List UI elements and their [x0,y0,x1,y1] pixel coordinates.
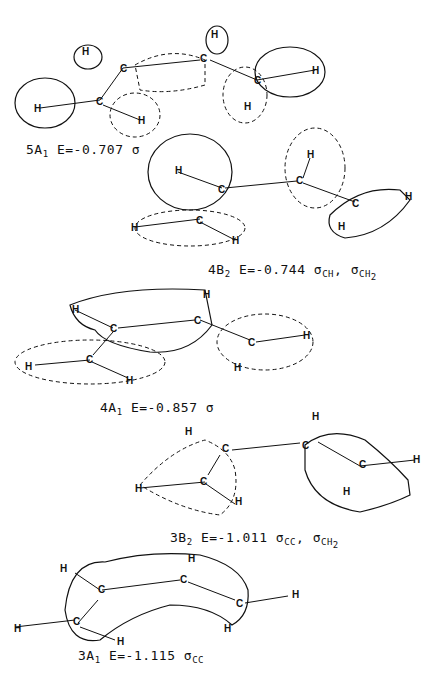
svg-text:H: H [224,623,231,634]
character-subscript: CH [322,269,334,279]
character-subscript: CC [192,655,204,665]
svg-text:H: H [82,46,89,57]
svg-text:H: H [292,589,299,600]
svg-text:C: C [86,354,93,365]
orbital-3b2: CC CC HH HH HH [135,411,420,515]
svg-text:C: C [254,75,261,86]
svg-text:H: H [131,222,138,233]
sub-sub-text: 2 [333,540,339,550]
svg-text:H: H [72,304,79,315]
sub-text: CH [359,269,371,279]
svg-text:C: C [218,184,225,195]
orbital-character-2: σ [313,530,321,545]
symmetry-label: 5A [26,142,43,157]
svg-text:H: H [413,454,420,465]
svg-text:H: H [232,235,239,246]
svg-text:C: C [200,53,207,64]
orbital-character: σ [184,648,192,663]
svg-text:C: C [98,584,105,595]
svg-text:C: C [96,96,103,107]
svg-text:C: C [110,323,117,334]
orbital-3a1: CC CC HH HH HH [14,553,299,647]
svg-text:C: C [194,315,201,326]
svg-text:H: H [126,375,133,386]
energy-value: E=-1.115 [109,648,176,663]
svg-text:H: H [312,65,319,76]
orbital-character: σ [314,262,322,277]
symmetry-subscript: 1 [43,149,49,159]
character-subscript: CC [284,537,296,547]
svg-text:C: C [236,598,243,609]
svg-text:H: H [135,483,142,494]
svg-text:H: H [117,636,124,647]
svg-text:C: C [359,459,366,470]
svg-text:H: H [34,103,41,114]
svg-text:H: H [188,553,195,564]
character-2-subscript: CH2 [359,269,377,279]
svg-text:H: H [60,563,67,574]
svg-text:H: H [25,361,32,372]
sub-sub-text: 2 [371,272,377,282]
svg-text:H: H [138,115,145,126]
svg-text:H: H [175,165,182,176]
svg-text:C: C [196,215,203,226]
svg-text:H: H [307,149,314,160]
symmetry-label: 4B [208,262,225,277]
svg-text:H: H [235,496,242,507]
energy-value: E=-0.707 [57,142,124,157]
svg-text:H: H [312,411,319,422]
svg-text:H: H [244,101,251,112]
energy-value: E=-0.744 [239,262,306,277]
svg-text:H: H [14,623,21,634]
svg-text:H: H [343,486,350,497]
svg-text:C: C [302,440,309,451]
orbital-character: σ [132,142,140,157]
symmetry-subscript: 2 [225,269,231,279]
orbital-figure: CC CC HH HH HH CC CC HH HH HH CC [0,0,435,675]
label-3b2: 3B2 E=-1.011 σCC, σCH2 [170,530,339,550]
orbital-character: σ [276,530,284,545]
orbital-character: σ [206,400,214,415]
svg-text:C: C [73,616,80,627]
label-4b2: 4B2 E=-0.744 σCH, σCH2 [208,262,377,282]
label-4a1: 4A1 E=-0.857 σ [100,400,214,417]
symmetry-label: 3B [170,530,187,545]
label-5a1: 5A1 E=-0.707 σ [26,142,140,159]
svg-text:C: C [180,574,187,585]
svg-text:H: H [185,426,192,437]
svg-text:C: C [222,443,229,454]
svg-text:C: C [120,63,127,74]
orbital-4a1: CC CC HH HH HH [15,289,313,386]
label-3a1: 3A1 E=-1.115 σCC [78,648,204,665]
svg-text:H: H [405,191,412,202]
symmetry-subscript: 1 [95,655,101,665]
svg-text:H: H [203,289,210,300]
svg-text:C: C [200,476,207,487]
orbital-character-2: σ [351,262,359,277]
symmetry-label: 3A [78,648,95,663]
svg-text:H: H [338,221,345,232]
energy-value: E=-0.857 [131,400,198,415]
orbital-4b2: CC CC HH HH HH [131,128,412,246]
symmetry-subscript: 1 [117,407,123,417]
svg-text:C: C [352,198,359,209]
svg-text:H: H [303,330,310,341]
symmetry-subscript: 2 [187,537,193,547]
svg-text:C: C [296,175,303,186]
svg-text:C: C [248,337,255,348]
orbital-5a1: CC CC HH HH HH [15,26,325,137]
character-2-subscript: CH2 [321,537,339,547]
energy-value: E=-1.011 [201,530,268,545]
sub-text: CH [321,537,333,547]
symmetry-label: 4A [100,400,117,415]
svg-text:H: H [211,29,218,40]
svg-text:H: H [234,362,241,373]
